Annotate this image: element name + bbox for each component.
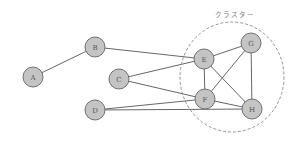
node-label: C — [116, 76, 121, 84]
node-d: D — [85, 100, 105, 120]
cluster-label: クラスター — [215, 10, 255, 19]
edge-c-f — [119, 79, 205, 99]
edges-layer — [33, 43, 252, 110]
node-label: E — [201, 56, 206, 64]
node-a: A — [23, 67, 43, 87]
node-f: F — [195, 89, 215, 109]
cluster-boundary — [180, 22, 284, 132]
node-label: F — [203, 96, 208, 104]
edge-d-f — [95, 99, 205, 110]
node-label: D — [92, 107, 98, 115]
node-e: E — [194, 49, 214, 69]
graph-diagram: クラスター ABCDEFGH — [0, 0, 304, 148]
edge-d-h — [95, 109, 252, 110]
node-label: G — [248, 40, 254, 48]
edge-f-g — [205, 43, 251, 99]
node-label: B — [92, 44, 97, 52]
node-c: C — [109, 69, 129, 89]
node-label: A — [29, 74, 36, 82]
node-label: H — [249, 106, 255, 114]
node-h: H — [242, 99, 262, 119]
node-b: B — [85, 37, 105, 57]
nodes-layer: ABCDEFGH — [23, 33, 262, 120]
edge-c-e — [119, 59, 204, 79]
node-g: G — [241, 33, 261, 53]
